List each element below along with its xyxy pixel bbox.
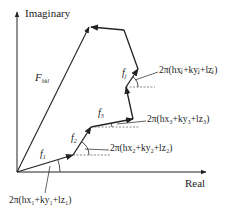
vector-connector-b [124,30,138,69]
f3-label: f3 [98,108,104,119]
resultant-vector [17,27,89,172]
f2-label: f2 [71,133,77,144]
phase-label-2: 2π(hx₂+ky₂+lz₂) [110,144,172,154]
imaginary-axis-label: Imaginary [25,8,70,19]
vector-fj [126,69,138,87]
resultant-label: Fhkl [35,72,49,84]
phase-label-j: 2π(hxⱼ+kyⱼ+lzⱼ) [159,66,217,76]
vector-connector-c [91,27,124,30]
phase-label-3: 2π(hx₃+ky₃+lz₃) [147,115,209,125]
phase-label-1: 2π(hx₁+ky₁+lz₁) [9,196,71,206]
fj-label: fj [122,68,126,79]
f1-label: f1 [40,149,46,160]
structure-factor-diagram: Imaginary Real Fhkl f1 f2 f3 fj 2π(hx₁+k… [0,0,236,215]
vector-connector-a [126,87,133,119]
real-axis-label: Real [185,178,205,189]
